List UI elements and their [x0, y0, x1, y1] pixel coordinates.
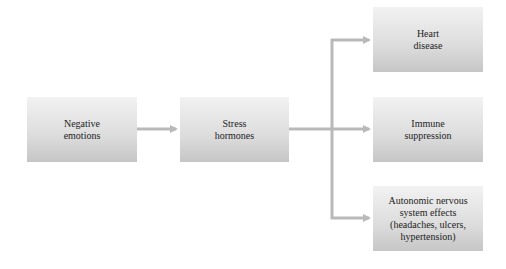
node-heart-disease: Heart disease [373, 7, 483, 72]
node-negative-emotions: Negative emotions [27, 97, 137, 162]
node-label: Negative emotions [64, 118, 101, 142]
node-label: Immune suppression [404, 118, 451, 142]
node-immune-suppression: Immune suppression [373, 97, 483, 162]
node-label: Heart disease [414, 28, 443, 52]
node-label: Stress hormones [215, 118, 254, 142]
node-autonomic-effects: Autonomic nervous system effects (headac… [373, 186, 483, 251]
node-label: Autonomic nervous system effects (headac… [388, 195, 467, 243]
node-stress-hormones: Stress hormones [180, 97, 289, 162]
